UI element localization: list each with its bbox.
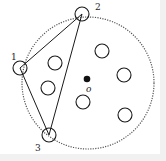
interior-point — [48, 56, 62, 70]
diagram-canvas: 1 2 3 o — [0, 0, 166, 161]
label-center: o — [86, 84, 92, 94]
interior-point — [76, 95, 90, 109]
triangle-edge-2-3 — [49, 14, 82, 135]
label-point-1: 1 — [11, 52, 17, 62]
interior-point — [118, 108, 132, 122]
label-point-3: 3 — [35, 143, 41, 153]
triangle-edge-1-2 — [20, 14, 82, 68]
interior-point — [95, 44, 109, 58]
interior-point — [41, 81, 55, 95]
center-dot — [84, 76, 91, 83]
label-point-2: 2 — [95, 2, 101, 12]
diagram-svg: 1 2 3 o — [0, 0, 166, 161]
boundary-circle — [22, 17, 154, 149]
interior-point — [117, 68, 131, 82]
